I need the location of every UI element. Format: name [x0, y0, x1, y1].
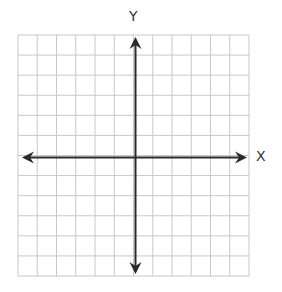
- x-axis-label: X: [256, 148, 266, 164]
- y-axis-label: Y: [129, 8, 138, 24]
- grid-lines: [18, 35, 249, 276]
- coordinate-plane: [0, 0, 282, 292]
